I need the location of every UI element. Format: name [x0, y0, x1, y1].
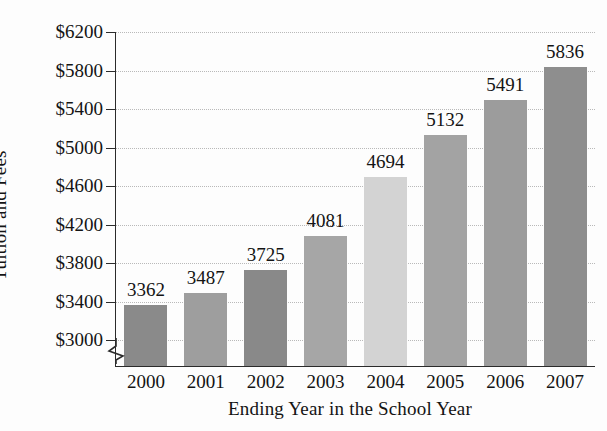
bar — [424, 135, 467, 366]
y-axis-tick-label: $3000 — [7, 329, 103, 351]
bar — [184, 293, 227, 366]
bar — [244, 270, 287, 366]
y-axis-tick-label: $3800 — [7, 252, 103, 274]
x-axis-tick-label: 2002 — [236, 371, 296, 393]
bar-value-label: 5132 — [413, 109, 477, 131]
gridline — [116, 32, 595, 33]
bar-value-label: 4081 — [294, 210, 358, 232]
y-axis-tick — [106, 109, 116, 110]
bar — [484, 100, 527, 366]
bar-value-label: 4694 — [353, 151, 417, 173]
bar-value-label: 3362 — [114, 279, 178, 301]
x-axis-tick-label: 2006 — [475, 371, 535, 393]
bar-chart: Tuition and Fees $3000$3400$3800$4200$46… — [0, 0, 607, 431]
bar — [544, 67, 587, 366]
gridline — [116, 71, 595, 72]
y-axis-tick — [106, 302, 116, 303]
bar — [364, 177, 407, 366]
y-axis-tick — [106, 148, 116, 149]
bar — [304, 236, 347, 366]
y-axis-tick-label: $5000 — [7, 137, 103, 159]
y-axis-tick-label: $6200 — [7, 21, 103, 43]
y-axis-tick — [106, 71, 116, 72]
y-axis-tick-labels: $3000$3400$3800$4200$4600$5000$5400$5800… — [0, 0, 103, 431]
x-axis-tick-label: 2005 — [415, 371, 475, 393]
x-axis-tick-label: 2001 — [176, 371, 236, 393]
y-axis-tick — [106, 263, 116, 264]
y-axis-tick-label: $3400 — [7, 291, 103, 313]
x-axis-title: Ending Year in the School Year — [105, 398, 595, 420]
axis-break-icon — [107, 338, 125, 364]
bar-value-label: 3725 — [234, 244, 298, 266]
y-axis-tick — [106, 32, 116, 33]
x-axis-tick-label: 2003 — [296, 371, 356, 393]
y-axis-tick-label: $4200 — [7, 214, 103, 236]
y-axis-tick-label: $4600 — [7, 175, 103, 197]
y-axis-tick — [106, 186, 116, 187]
bar-value-label: 3487 — [174, 267, 238, 289]
y-axis-tick — [106, 225, 116, 226]
bar-value-label: 5491 — [473, 74, 537, 96]
x-axis-tick-label: 2007 — [535, 371, 595, 393]
x-axis-tick-label: 2004 — [355, 371, 415, 393]
x-axis-line — [115, 366, 595, 367]
y-axis-tick-label: $5800 — [7, 60, 103, 82]
y-axis-line — [115, 32, 116, 366]
y-axis-tick-label: $5400 — [7, 98, 103, 120]
bar — [124, 305, 167, 366]
bar-value-label: 5836 — [533, 41, 597, 63]
x-axis-tick-label: 2000 — [116, 371, 176, 393]
